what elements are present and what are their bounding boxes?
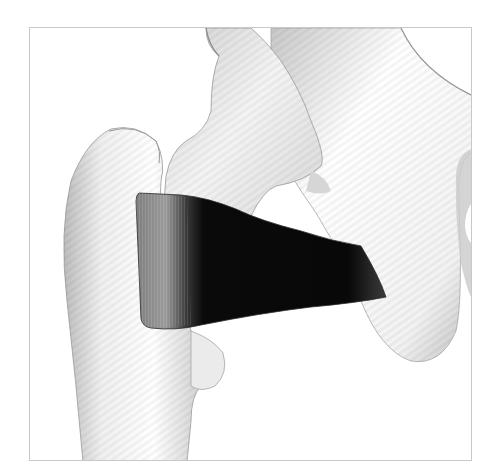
figure-frame (29, 27, 472, 461)
pelvis (271, 28, 472, 362)
figure-stage (0, 0, 489, 469)
lesser-trochanter (191, 331, 225, 390)
anatomy-illustration (30, 28, 472, 461)
